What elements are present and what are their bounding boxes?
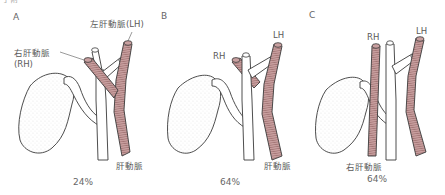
gallbladder bbox=[167, 75, 220, 153]
right-hepatic-artery-abbrev: (RH) bbox=[14, 60, 33, 69]
panel-c-letter: C bbox=[309, 11, 315, 20]
panel-b-letter: B bbox=[161, 12, 167, 21]
left-hepatic-artery-label: 左肝動脈(LH) bbox=[90, 20, 144, 29]
cut-off-header-text: 手術 bbox=[2, 0, 18, 4]
hepatic-artery-label: 肝動脈 bbox=[264, 162, 291, 171]
right-hepatic-artery-label: RH bbox=[367, 33, 379, 42]
right-hepatic-artery-label: 右肝動脈 bbox=[14, 49, 50, 58]
hepatic-artery bbox=[114, 42, 132, 156]
hepatic-artery-label: 肝動脈 bbox=[116, 162, 143, 171]
right-hepatic-artery-label: RH bbox=[213, 52, 225, 61]
left-hepatic-artery-label: LH bbox=[416, 27, 427, 36]
right-hepatic-artery bbox=[368, 46, 380, 156]
gallbladder bbox=[19, 73, 74, 153]
panel-c bbox=[315, 37, 426, 160]
left-hepatic-artery-label: LH bbox=[273, 31, 284, 40]
gallbladder bbox=[315, 77, 368, 153]
right-hepatic-artery-bottom-label: 右肝動脈 bbox=[346, 163, 382, 172]
panel-b-percentage: 64% bbox=[220, 178, 240, 187]
panel-c-percentage: 64% bbox=[367, 175, 387, 184]
bile-duct bbox=[386, 44, 396, 160]
panel-a-percentage: 24% bbox=[73, 178, 93, 187]
panel-a-letter: A bbox=[13, 13, 19, 22]
